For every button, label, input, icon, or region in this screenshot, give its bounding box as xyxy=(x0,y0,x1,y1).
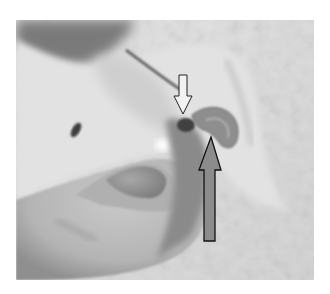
claw-quick xyxy=(177,118,195,132)
light-glare xyxy=(155,139,171,151)
pet-paw-photo xyxy=(16,20,314,280)
